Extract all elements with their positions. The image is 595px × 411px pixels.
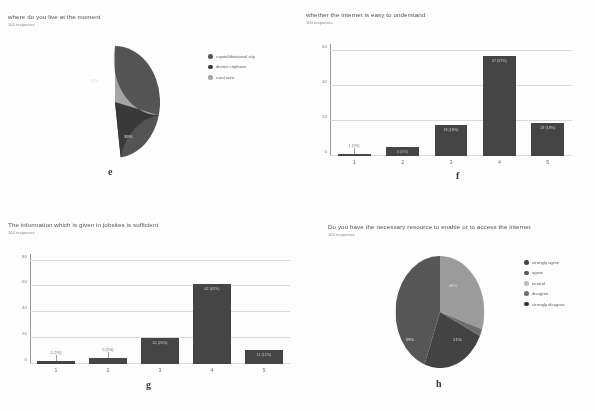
pie-label-h-agree: 39% <box>406 336 414 341</box>
bar-column-f-5: 19 (19%) 5 <box>524 44 572 156</box>
bar-leader-f-1 <box>354 148 355 154</box>
legend-label-rural-area: rural area <box>216 75 234 80</box>
pie-label-e-1: 39% <box>124 133 132 138</box>
x-tick-f-4: 4 <box>498 159 501 165</box>
panel-e: where do you live at the moment 100 resp… <box>8 14 298 189</box>
bar-leader-g-2 <box>108 352 109 358</box>
legend-swatch-neutral <box>524 281 529 286</box>
y-tick-g-3: 60 <box>22 279 30 284</box>
bar-f-4[interactable]: 57 (57%) <box>483 56 516 156</box>
legend-item-disagree[interactable]: disagree <box>524 291 565 296</box>
bar-column-f-2: 5 (5%) 2 <box>378 44 426 156</box>
legend-item-agree[interactable]: agree <box>524 270 565 275</box>
legend-label-capital-city: capital/divisional city <box>216 54 255 59</box>
legend-swatch-agree <box>524 271 529 276</box>
legend-h: strongly agree agree neutral disagree st… <box>524 260 565 312</box>
bar-value-g-3: 20 (20%) <box>153 341 168 345</box>
legend-swatch-capital-city <box>208 54 213 59</box>
plot-area-f: 0 20 40 60 1 (1%) 1 5 (5%) 2 <box>330 44 572 156</box>
bar-value-f-1: 1 (1%) <box>349 144 360 148</box>
pie-label-e-0: 52% <box>90 77 98 82</box>
bar-value-g-5: 11 (11%) <box>257 353 271 357</box>
bar-g-1[interactable]: 2 (2%) <box>37 361 74 364</box>
pie-chart-e: 52% 39% 9% <box>60 46 170 158</box>
bar-value-f-3: 18 (18%) <box>443 128 458 132</box>
chart-title-g: The information which is given in jobsit… <box>8 222 298 229</box>
x-tick-f-3: 3 <box>450 159 453 165</box>
bar-column-f-3: 18 (18%) 3 <box>427 44 475 156</box>
panel-letter-h: h <box>436 378 442 389</box>
bar-value-g-2: 5 (5%) <box>103 348 114 352</box>
pie-slices-h <box>396 256 485 368</box>
chart-subtitle-e: 100 responses <box>8 23 298 28</box>
bar-f-1[interactable]: 1 (1%) <box>338 154 371 156</box>
bar-g-5[interactable]: 11 (11%) <box>245 350 282 364</box>
legend-e: capital/divisional city district city/to… <box>208 54 255 85</box>
bar-value-f-5: 19 (19%) <box>540 126 555 130</box>
y-tick-f-1: 20 <box>322 114 330 119</box>
legend-label-district-town: district city/town <box>216 64 246 69</box>
bar-column-f-1: 1 (1%) 1 <box>330 44 378 156</box>
bar-column-g-3: 20 (20%) 3 <box>134 254 186 364</box>
legend-item-rural-area[interactable]: rural area <box>208 75 255 80</box>
bar-f-2[interactable]: 5 (5%) <box>386 147 419 156</box>
legend-swatch-disagree <box>524 291 529 296</box>
panel-g: The information which is given in jobsit… <box>8 222 298 402</box>
bar-chart-f: 0 20 40 60 1 (1%) 1 5 (5%) 2 <box>330 44 572 156</box>
x-tick-g-1: 1 <box>55 367 58 373</box>
pie-slices-e <box>70 46 160 158</box>
bar-column-g-4: 62 (62%) 4 <box>186 254 238 364</box>
bar-chart-g: 0 20 40 60 80 2 (2%) 1 5 (5%) 2 <box>30 254 290 364</box>
chart-subtitle-g: 100 responses <box>8 231 298 236</box>
bar-value-g-4: 62 (62%) <box>205 287 220 291</box>
plot-area-g: 0 20 40 60 80 2 (2%) 1 5 (5%) 2 <box>30 254 290 364</box>
panel-f: whether the internet is easy to understa… <box>306 12 591 192</box>
bar-leader-g-1 <box>56 355 57 361</box>
bar-g-3[interactable]: 20 (20%) <box>141 338 178 364</box>
chart-subtitle-f: 100 responses <box>306 21 591 26</box>
panel-h: Do you have the necessary resource to en… <box>328 224 593 404</box>
x-tick-g-3: 3 <box>159 367 162 373</box>
x-tick-f-1: 1 <box>353 159 356 165</box>
chart-subtitle-h: 100 responses <box>328 233 593 238</box>
bar-value-f-2: 5 (5%) <box>397 150 408 154</box>
panel-letter-f: f <box>456 170 459 181</box>
legend-item-neutral[interactable]: neutral <box>524 281 565 286</box>
legend-label-strongly-disagree: strongly disagree <box>532 302 565 307</box>
bar-column-f-4: 57 (57%) 4 <box>475 44 523 156</box>
legend-swatch-strongly-disagree <box>524 302 529 307</box>
pie-chart-h: 40% 39% 21% <box>386 256 494 368</box>
legend-swatch-strongly-agree <box>524 260 529 265</box>
x-tick-f-2: 2 <box>401 159 404 165</box>
chart-title-h: Do you have the necessary resource to en… <box>328 224 593 231</box>
legend-item-district-town[interactable]: district city/town <box>208 64 255 69</box>
y-tick-f-2: 40 <box>322 79 330 84</box>
chart-title-e: where do you live at the moment <box>8 14 298 21</box>
bar-value-g-1: 2 (2%) <box>51 351 62 355</box>
bar-column-g-1: 2 (2%) 1 <box>30 254 82 364</box>
bar-value-f-4: 57 (57%) <box>492 59 507 63</box>
legend-item-strongly-disagree[interactable]: strongly disagree <box>524 302 565 307</box>
bar-column-g-5: 11 (11%) 5 <box>238 254 290 364</box>
x-tick-g-2: 2 <box>107 367 110 373</box>
bar-f-3[interactable]: 18 (18%) <box>435 125 468 156</box>
x-tick-g-5: 5 <box>263 367 266 373</box>
y-tick-g-1: 20 <box>22 331 30 336</box>
legend-item-capital-city[interactable]: capital/divisional city <box>208 54 255 59</box>
legend-item-strongly-agree[interactable]: strongly agree <box>524 260 565 265</box>
bar-f-5[interactable]: 19 (19%) <box>531 123 564 156</box>
pie-label-h-strongly-agree: 21% <box>453 336 461 341</box>
legend-swatch-district-town <box>208 65 213 70</box>
legend-label-neutral: neutral <box>532 281 545 286</box>
pie-label-e-2: 9% <box>143 89 149 94</box>
legend-swatch-rural-area <box>208 75 213 80</box>
x-tick-g-4: 4 <box>211 367 214 373</box>
pie-label-h-neutral: 40% <box>449 283 457 288</box>
x-tick-f-5: 5 <box>546 159 549 165</box>
legend-label-disagree: disagree <box>532 291 548 296</box>
bar-g-4[interactable]: 62 (62%) <box>193 284 230 364</box>
bar-g-2[interactable]: 5 (5%) <box>89 358 126 364</box>
legend-label-agree: agree <box>532 270 543 275</box>
panel-letter-g: g <box>146 379 151 390</box>
chart-title-f: whether the internet is easy to understa… <box>306 12 591 19</box>
